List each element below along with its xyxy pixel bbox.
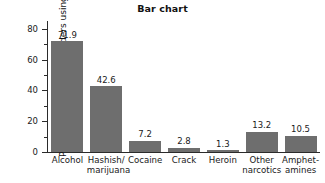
y-tick-minor (44, 106, 47, 107)
x-axis-label-line1: Heroin (209, 155, 237, 165)
y-tick-label: 20 (14, 117, 38, 126)
chart-title: Bar chart (0, 3, 325, 14)
bar[interactable] (285, 136, 317, 152)
y-tick-major (42, 152, 47, 153)
bar[interactable] (246, 132, 278, 152)
bar-value-label: 7.2 (138, 130, 152, 139)
bar-value-label: 71.9 (58, 31, 77, 40)
y-tick-minor (44, 44, 47, 45)
bar-chart: Bar chart 020406080 Percentage of twelft… (0, 0, 325, 183)
x-axis-line (47, 152, 320, 153)
x-axis-label: Crack (165, 155, 204, 165)
x-axis-label-line1: Cocaine (128, 155, 162, 165)
y-tick-major (42, 90, 47, 91)
bar-value-label: 2.8 (177, 137, 191, 146)
bar-slot: 13.2 (242, 21, 281, 152)
bar-value-label: 42.6 (97, 76, 116, 85)
x-axis-label: Amphet-amines (281, 155, 320, 175)
y-tick-label: 0 (14, 148, 38, 157)
x-axis-label: Cocaine (126, 155, 165, 165)
x-axis-label-line1: Other (250, 155, 274, 165)
y-tick-major (42, 29, 47, 30)
x-axis-label-line1: Crack (172, 155, 197, 165)
y-tick-major (42, 60, 47, 61)
bar[interactable] (168, 148, 200, 152)
x-axis-label-line2: marijuana (87, 165, 126, 175)
bar[interactable] (51, 41, 83, 152)
bar-slot: 10.5 (281, 21, 320, 152)
x-axis-label-line2: amines (281, 165, 320, 175)
bar-value-label: 10.5 (291, 125, 310, 134)
bar-value-label: 13.2 (252, 121, 271, 130)
x-axis-label: Hashish/marijuana (87, 155, 126, 175)
x-axis-label-line1: Alcohol (52, 155, 83, 165)
x-axis-label-line1: Hashish/ (88, 155, 125, 165)
bar-slot: 1.3 (203, 21, 242, 152)
y-tick-minor (44, 75, 47, 76)
y-tick-major (42, 121, 47, 122)
y-tick-minor (44, 137, 47, 138)
x-axis-label-line2: narcotics (242, 165, 281, 175)
bar-value-label: 1.3 (216, 140, 230, 149)
bar[interactable] (90, 86, 122, 152)
bar[interactable] (207, 150, 239, 152)
x-axis-label: Othernarcotics (242, 155, 281, 175)
x-axis-labels: AlcoholHashish/marijuanaCocaineCrackHero… (48, 155, 320, 183)
bar-slot: 2.8 (165, 21, 204, 152)
x-axis-label: Alcohol (48, 155, 87, 165)
bar-series: 71.942.67.22.81.313.210.5 (48, 21, 320, 152)
bar[interactable] (129, 141, 161, 152)
y-tick-label: 60 (14, 56, 38, 65)
bar-slot: 7.2 (126, 21, 165, 152)
y-tick-label: 80 (14, 25, 38, 34)
y-tick-label: 40 (14, 86, 38, 95)
x-axis-label: Heroin (203, 155, 242, 165)
bar-slot: 71.9 (48, 21, 87, 152)
bar-slot: 42.6 (87, 21, 126, 152)
x-axis-label-line1: Amphet- (282, 155, 319, 165)
